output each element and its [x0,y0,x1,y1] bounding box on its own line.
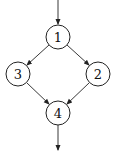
node-1-label: 1 [54,30,62,45]
control-flow-diagram: 1 3 2 4 [0,0,117,152]
edge-1-to-2 [67,45,89,65]
node-4: 4 [46,101,70,125]
node-4-label: 4 [54,106,62,121]
node-1: 1 [46,25,70,49]
node-3: 3 [6,62,30,86]
edge-2-to-4 [67,83,89,104]
edge-1-to-3 [27,45,49,65]
node-3-label: 3 [14,67,22,82]
node-2-label: 2 [94,67,102,82]
edge-3-to-4 [27,83,49,104]
node-2: 2 [86,62,110,86]
